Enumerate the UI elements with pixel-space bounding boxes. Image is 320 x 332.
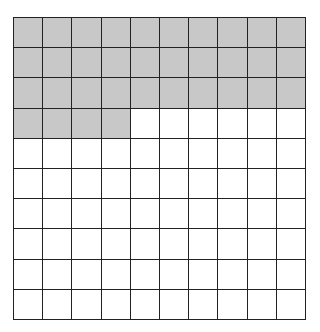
shaded-cell <box>277 78 306 108</box>
shaded-cell <box>72 48 101 78</box>
empty-cell <box>160 139 189 169</box>
empty-cell <box>189 260 218 290</box>
shaded-cell <box>14 48 43 78</box>
shaded-cell <box>160 48 189 78</box>
empty-cell <box>160 260 189 290</box>
shaded-cell <box>72 78 101 108</box>
empty-cell <box>72 199 101 229</box>
empty-cell <box>160 290 189 320</box>
empty-cell <box>72 290 101 320</box>
shaded-cell <box>218 48 247 78</box>
empty-cell <box>218 199 247 229</box>
empty-cell <box>72 169 101 199</box>
empty-cell <box>102 290 131 320</box>
shaded-cell <box>102 18 131 48</box>
shaded-cell <box>131 48 160 78</box>
empty-cell <box>248 290 277 320</box>
shaded-cell <box>102 48 131 78</box>
empty-cell <box>248 260 277 290</box>
empty-cell <box>277 109 306 139</box>
shaded-cell <box>218 78 247 108</box>
empty-cell <box>277 260 306 290</box>
empty-cell <box>14 199 43 229</box>
shaded-cell <box>43 48 72 78</box>
shaded-cell <box>277 18 306 48</box>
empty-cell <box>43 290 72 320</box>
empty-cell <box>131 139 160 169</box>
empty-cell <box>43 139 72 169</box>
empty-cell <box>102 229 131 259</box>
shaded-cell <box>43 18 72 48</box>
shaded-cell <box>160 78 189 108</box>
empty-cell <box>14 229 43 259</box>
empty-cell <box>14 169 43 199</box>
empty-cell <box>189 290 218 320</box>
empty-cell <box>72 139 101 169</box>
empty-cell <box>160 169 189 199</box>
shaded-cell <box>72 18 101 48</box>
empty-cell <box>102 139 131 169</box>
empty-cell <box>277 229 306 259</box>
shaded-cell <box>189 48 218 78</box>
empty-cell <box>218 169 247 199</box>
empty-cell <box>189 199 218 229</box>
shaded-cell <box>102 78 131 108</box>
empty-cell <box>218 229 247 259</box>
empty-cell <box>189 229 218 259</box>
empty-cell <box>14 290 43 320</box>
empty-cell <box>218 109 247 139</box>
empty-cell <box>14 260 43 290</box>
empty-cell <box>189 139 218 169</box>
shaded-cell <box>189 78 218 108</box>
shaded-cell <box>131 78 160 108</box>
empty-cell <box>277 290 306 320</box>
shaded-cell <box>102 109 131 139</box>
empty-cell <box>248 109 277 139</box>
empty-cell <box>131 109 160 139</box>
empty-cell <box>218 260 247 290</box>
empty-cell <box>248 199 277 229</box>
empty-cell <box>160 109 189 139</box>
empty-cell <box>189 109 218 139</box>
empty-cell <box>72 229 101 259</box>
shaded-cell <box>43 78 72 108</box>
empty-cell <box>131 260 160 290</box>
empty-cell <box>43 260 72 290</box>
shaded-cell <box>189 18 218 48</box>
shaded-cell <box>43 109 72 139</box>
empty-cell <box>43 229 72 259</box>
empty-cell <box>131 229 160 259</box>
empty-cell <box>131 199 160 229</box>
shaded-cell <box>131 18 160 48</box>
empty-cell <box>248 169 277 199</box>
empty-cell <box>131 290 160 320</box>
shaded-cell <box>14 18 43 48</box>
shaded-cell <box>160 18 189 48</box>
empty-cell <box>189 169 218 199</box>
shaded-cell <box>277 48 306 78</box>
empty-cell <box>248 229 277 259</box>
empty-cell <box>277 139 306 169</box>
empty-cell <box>277 169 306 199</box>
empty-cell <box>277 199 306 229</box>
shaded-cell <box>248 78 277 108</box>
empty-cell <box>14 139 43 169</box>
empty-cell <box>72 260 101 290</box>
empty-cell <box>160 229 189 259</box>
empty-cell <box>102 199 131 229</box>
shaded-cell <box>218 18 247 48</box>
empty-cell <box>160 199 189 229</box>
empty-cell <box>102 260 131 290</box>
empty-cell <box>248 139 277 169</box>
hundred-grid <box>13 17 306 320</box>
shaded-cell <box>14 78 43 108</box>
empty-cell <box>43 169 72 199</box>
empty-cell <box>102 169 131 199</box>
shaded-cell <box>248 18 277 48</box>
empty-cell <box>218 290 247 320</box>
shaded-cell <box>72 109 101 139</box>
empty-cell <box>131 169 160 199</box>
shaded-cell <box>14 109 43 139</box>
empty-cell <box>43 199 72 229</box>
empty-cell <box>218 139 247 169</box>
